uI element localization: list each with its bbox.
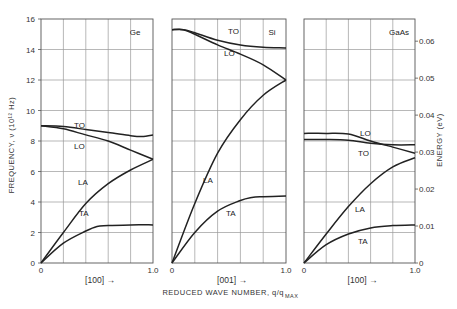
curve-gaas-to	[304, 139, 415, 145]
branch-label-to: TO	[358, 149, 369, 158]
panel-ge: TOLOLATAGe01.0[100] →	[39, 19, 159, 285]
branch-label-lo: LO	[74, 142, 85, 151]
branch-label-ta: TA	[358, 237, 368, 246]
y-tick-label: 0	[31, 259, 36, 268]
y-tick-label: 14	[26, 46, 35, 55]
x-tick-label: 0	[302, 266, 307, 275]
branch-label-ta: TA	[79, 209, 89, 218]
panel-title: Si	[268, 28, 275, 37]
branch-label-la: LA	[78, 178, 88, 187]
y-tick-label-right: 0	[419, 259, 424, 268]
y-tick-label: 10	[26, 107, 35, 116]
x-tick-label: 0	[39, 266, 44, 275]
x-tick-label: 0	[170, 266, 175, 275]
branch-label-la: LA	[203, 176, 213, 185]
panel-si: TOLOLATASi01.0[001] →	[170, 19, 292, 285]
y-tick-label-right: 0.04	[419, 111, 435, 120]
x-tick-label: 1.0	[147, 266, 159, 275]
y-tick-label: 16	[26, 15, 35, 24]
y-tick-label-right: 0.06	[419, 37, 435, 46]
y-axis-title-left: FREQUENCY, ν (10¹² Hz)	[7, 97, 16, 194]
panel-gaas: LOTOLATAGaAs01.0[100] →	[302, 19, 421, 285]
direction-label: [100] →	[85, 275, 115, 285]
y-tick-label: 4	[31, 198, 36, 207]
y-tick-label: 12	[26, 76, 35, 85]
panels: TOLOLATAGe01.0[100] →TOLOLATASi01.0[001]…	[39, 19, 421, 285]
branch-label-la: LA	[355, 205, 365, 214]
y-tick-label-right: 0.03	[419, 148, 435, 157]
direction-label: [100] →	[348, 275, 378, 285]
curve-ge-ta	[41, 225, 153, 263]
y-tick-label: 6	[31, 168, 36, 177]
direction-label: [001] →	[217, 275, 247, 285]
branch-label-lo: LO	[224, 49, 235, 58]
y-tick-label-right: 0.05	[419, 74, 435, 83]
branch-label-ta: TA	[226, 209, 236, 218]
right-axis: 00.010.020.030.040.050.06	[415, 37, 435, 268]
x-axis-title-subscript: MAX	[285, 293, 298, 299]
y-tick-label: 2	[31, 229, 36, 238]
x-axis-title: REDUCED WAVE NUMBER, q/q	[162, 288, 284, 297]
branch-label-to: TO	[74, 121, 85, 130]
branch-label-to: TO	[228, 27, 239, 36]
left-axis: 0246810121416	[26, 15, 41, 268]
curve-si-ta	[172, 196, 286, 263]
y-axis-title-right: ENERGY (eV)	[435, 113, 444, 166]
y-tick-label-right: 0.01	[419, 222, 435, 231]
y-tick-label-right: 0.02	[419, 185, 435, 194]
panel-title: GaAs	[389, 28, 409, 37]
phonon-dispersion-chart: TOLOLATAGe01.0[100] →TOLOLATASi01.0[001]…	[0, 0, 457, 309]
y-tick-label: 8	[31, 137, 36, 146]
panel-title: Ge	[130, 28, 141, 37]
x-tick-label: 1.0	[280, 266, 292, 275]
branch-label-lo: LO	[360, 129, 371, 138]
